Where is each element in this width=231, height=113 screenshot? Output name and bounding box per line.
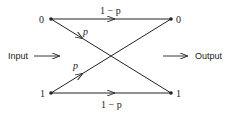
output-label: Output (195, 51, 223, 61)
input-node-1 (49, 91, 53, 95)
input-node-1-label: 1 (40, 88, 45, 99)
output-node-0-label: 0 (176, 14, 181, 25)
output-node-1-label: 1 (176, 88, 181, 99)
output-node-1 (169, 91, 173, 95)
output-node-0 (169, 17, 173, 21)
edge-0-to-0-label: 1 − p (100, 5, 121, 16)
edge-1-to-0-label: p (72, 60, 78, 71)
bsc-diagram: 0 1 0 1 1 − p p p 1 − p Input Output (0, 0, 231, 113)
edge-0-to-1-label: p (82, 26, 88, 37)
input-node-0 (49, 17, 53, 21)
input-label: Input (8, 51, 29, 61)
edge-1-to-1-label: 1 − p (101, 99, 122, 110)
input-node-0-label: 0 (39, 14, 44, 25)
